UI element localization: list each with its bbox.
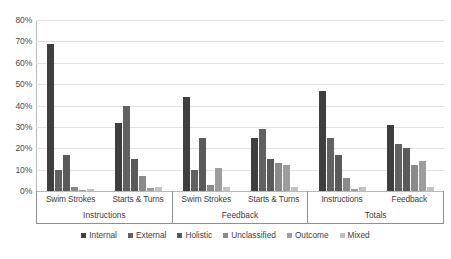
chart-legend: InternalExternalHolisticUnclassifiedOutc… bbox=[0, 230, 451, 240]
plot-area bbox=[36, 20, 444, 191]
bar bbox=[131, 159, 138, 191]
grouped-bar-chart: 0%10%20%30%40%50%60%70%80% Swim StrokesS… bbox=[0, 0, 451, 259]
bar bbox=[387, 125, 394, 191]
bar-group bbox=[172, 20, 240, 191]
bar bbox=[259, 129, 266, 191]
category-group-label: Feedback bbox=[173, 207, 308, 223]
legend-label: External bbox=[136, 230, 166, 240]
subcategory-label: Swim Strokes bbox=[173, 191, 240, 207]
bar bbox=[319, 91, 326, 191]
bar bbox=[47, 44, 54, 191]
y-axis-tick-label: 0% bbox=[0, 186, 32, 196]
bar bbox=[215, 168, 222, 192]
bar bbox=[63, 155, 70, 191]
bar bbox=[191, 170, 198, 191]
legend-swatch-icon bbox=[287, 233, 292, 238]
bar-group bbox=[104, 20, 172, 191]
legend-swatch-icon bbox=[340, 233, 345, 238]
legend-label: Mixed bbox=[348, 230, 370, 240]
bar bbox=[183, 97, 190, 191]
subcategory-label: Instructions bbox=[308, 191, 375, 207]
subcategory-label: Starts & Turns bbox=[240, 191, 307, 207]
bar-group bbox=[36, 20, 104, 191]
bar bbox=[115, 123, 122, 191]
y-axis-tick-label: 50% bbox=[0, 79, 32, 89]
bar bbox=[275, 163, 282, 191]
bar bbox=[335, 155, 342, 191]
subcategory-row: Swim StrokesStarts & Turns bbox=[173, 191, 308, 207]
bar-groups bbox=[36, 20, 444, 191]
category-group-label: Totals bbox=[308, 207, 443, 223]
bar bbox=[411, 165, 418, 191]
y-axis-tick-label: 40% bbox=[0, 101, 32, 111]
bar-group bbox=[376, 20, 444, 191]
bar bbox=[403, 148, 410, 191]
category-supergroup: InstructionsFeedbackTotals bbox=[307, 191, 444, 224]
legend-item[interactable]: Internal bbox=[81, 230, 117, 240]
bar bbox=[343, 178, 350, 191]
legend-swatch-icon bbox=[128, 233, 133, 238]
legend-swatch-icon bbox=[81, 233, 86, 238]
category-supergroup: Swim StrokesStarts & TurnsFeedback bbox=[172, 191, 309, 224]
subcategory-label: Swim Strokes bbox=[37, 191, 104, 207]
bar bbox=[419, 161, 426, 191]
bar bbox=[395, 144, 402, 191]
bar bbox=[327, 138, 334, 191]
legend-item[interactable]: Holistic bbox=[177, 230, 212, 240]
subcategory-row: InstructionsFeedback bbox=[308, 191, 443, 207]
legend-item[interactable]: Mixed bbox=[340, 230, 370, 240]
legend-label: Unclassified bbox=[231, 230, 276, 240]
legend-item[interactable]: Unclassified bbox=[223, 230, 276, 240]
bar-group bbox=[240, 20, 308, 191]
y-axis-tick-label: 10% bbox=[0, 165, 32, 175]
y-axis-tick-label: 20% bbox=[0, 143, 32, 153]
y-axis-tick-label: 80% bbox=[0, 15, 32, 25]
legend-swatch-icon bbox=[223, 233, 228, 238]
legend-label: Outcome bbox=[295, 230, 329, 240]
bar bbox=[55, 170, 62, 191]
y-axis-tick-label: 30% bbox=[0, 122, 32, 132]
y-axis-tick-label: 70% bbox=[0, 36, 32, 46]
legend-item[interactable]: Outcome bbox=[287, 230, 329, 240]
category-axis: Swim StrokesStarts & TurnsInstructionsSw… bbox=[36, 191, 444, 224]
y-axis-labels: 0%10%20%30%40%50%60%70%80% bbox=[0, 20, 34, 191]
category-supergroup: Swim StrokesStarts & TurnsInstructions bbox=[36, 191, 173, 224]
category-group-label: Instructions bbox=[37, 207, 172, 223]
bar bbox=[283, 165, 290, 191]
bar bbox=[251, 138, 258, 191]
subcategory-label: Feedback bbox=[376, 191, 443, 207]
bar bbox=[199, 138, 206, 191]
bar bbox=[267, 159, 274, 191]
legend-item[interactable]: External bbox=[128, 230, 166, 240]
subcategory-label: Starts & Turns bbox=[104, 191, 171, 207]
y-axis-tick-label: 60% bbox=[0, 58, 32, 68]
legend-label: Holistic bbox=[185, 230, 212, 240]
subcategory-row: Swim StrokesStarts & Turns bbox=[37, 191, 172, 207]
legend-swatch-icon bbox=[177, 233, 182, 238]
bar bbox=[123, 106, 130, 192]
bar bbox=[139, 176, 146, 191]
legend-label: Internal bbox=[89, 230, 117, 240]
bar-group bbox=[308, 20, 376, 191]
